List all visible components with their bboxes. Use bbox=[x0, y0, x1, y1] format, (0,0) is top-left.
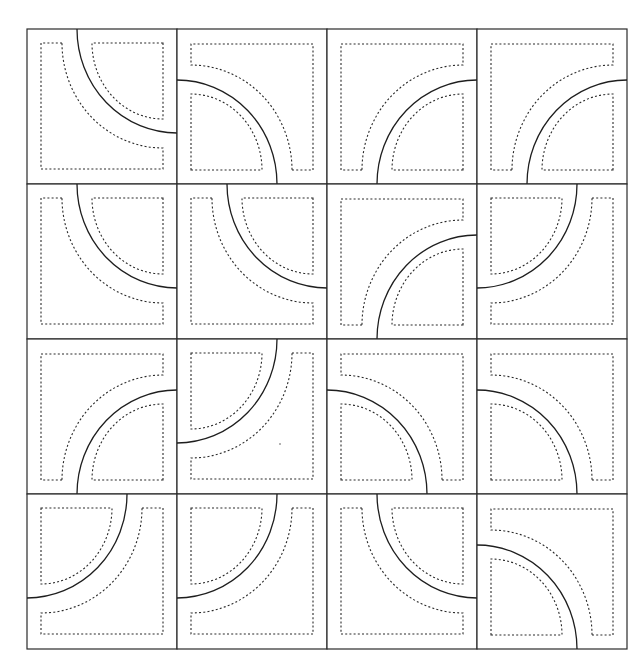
quarter-arc-tile bbox=[477, 339, 627, 494]
tile-r0-c1-bl bbox=[177, 29, 327, 184]
tile-r1-c2-br bbox=[327, 184, 477, 339]
quarter-arc-tile bbox=[27, 494, 177, 649]
quarter-arc-tile bbox=[327, 339, 477, 494]
quarter-arc-tile bbox=[177, 494, 327, 649]
tile-r0-c2-br bbox=[327, 29, 477, 184]
tile-r0-c3-br bbox=[477, 29, 627, 184]
quarter-arc-tile bbox=[177, 184, 327, 339]
tile-grid bbox=[27, 29, 627, 649]
tile-r3-c1-tl bbox=[177, 494, 327, 649]
tile-r0-c0-tr bbox=[27, 29, 177, 184]
tile-r2-c3-bl bbox=[477, 339, 627, 494]
tile-r2-c0-br bbox=[27, 339, 177, 494]
quarter-arc-tile bbox=[27, 29, 177, 184]
tile-r1-c0-tr bbox=[27, 184, 177, 339]
tile-r3-c0-tl bbox=[27, 494, 177, 649]
tile-r2-c2-bl bbox=[327, 339, 477, 494]
quarter-arc-tile bbox=[27, 339, 177, 494]
quarter-arc-tile bbox=[177, 339, 327, 494]
speck-mark bbox=[279, 443, 281, 445]
tile-r1-c1-tr bbox=[177, 184, 327, 339]
tile-r3-c2-tr bbox=[327, 494, 477, 649]
quarter-arc-tile bbox=[477, 184, 627, 339]
tile-r3-c3-bl bbox=[477, 494, 627, 649]
quarter-arc-tile bbox=[327, 494, 477, 649]
tile-r2-c1-tl bbox=[177, 339, 327, 494]
quarter-arc-tile bbox=[327, 29, 477, 184]
quarter-arc-tile bbox=[477, 29, 627, 184]
quarter-arc-tile bbox=[177, 29, 327, 184]
quilt-pattern-diagram bbox=[0, 0, 642, 670]
tile-r1-c3-tl bbox=[477, 184, 627, 339]
quarter-arc-tile bbox=[327, 184, 477, 339]
quarter-arc-tile bbox=[477, 494, 627, 649]
quarter-arc-tile bbox=[27, 184, 177, 339]
